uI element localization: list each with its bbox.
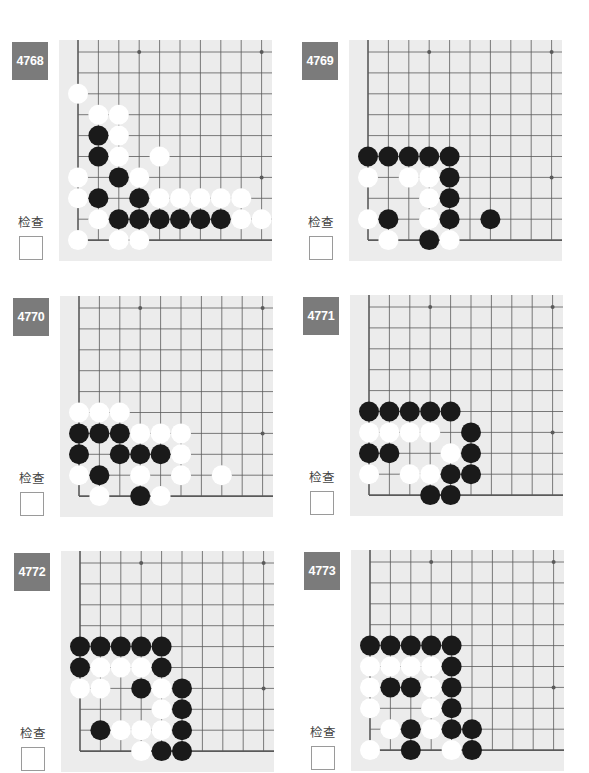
white-stone-icon [129, 230, 149, 250]
check-checkbox[interactable] [20, 492, 44, 516]
white-stone-icon [440, 230, 460, 250]
star-point-icon [428, 305, 432, 309]
white-stone-icon [131, 741, 151, 761]
white-stone-icon [419, 209, 439, 229]
black-stone-icon [378, 147, 398, 167]
black-stone-icon [442, 636, 462, 656]
white-stone-icon [211, 188, 231, 208]
black-stone-icon [420, 402, 440, 422]
black-stone-icon [441, 485, 461, 505]
black-stone-icon [88, 126, 108, 146]
white-stone-icon [150, 188, 170, 208]
black-stone-icon [400, 402, 420, 422]
go-board[interactable] [350, 295, 563, 516]
white-stone-icon [152, 720, 172, 740]
black-stone-icon [360, 636, 380, 656]
go-board[interactable] [60, 296, 273, 517]
black-stone-icon [401, 740, 421, 760]
white-stone-icon [88, 209, 108, 229]
white-stone-icon [109, 105, 129, 125]
white-stone-icon [231, 209, 251, 229]
check-label: 检查 [308, 212, 338, 231]
black-stone-icon [359, 443, 379, 463]
black-stone-icon [461, 464, 481, 484]
black-stone-icon [110, 444, 130, 464]
go-board[interactable] [59, 40, 272, 261]
white-stone-icon [378, 230, 398, 250]
black-stone-icon [480, 209, 500, 229]
black-stone-icon [129, 209, 149, 229]
white-stone-icon [401, 657, 421, 677]
white-stone-icon [420, 422, 440, 442]
check-checkbox[interactable] [21, 747, 45, 771]
black-stone-icon [129, 188, 149, 208]
star-point-icon [261, 431, 265, 435]
white-stone-icon [359, 422, 379, 442]
white-stone-icon [151, 423, 171, 443]
white-stone-icon [441, 443, 461, 463]
black-stone-icon [150, 209, 170, 229]
white-stone-icon [442, 740, 462, 760]
white-stone-icon [111, 658, 131, 678]
white-stone-icon [152, 678, 172, 698]
black-stone-icon [152, 637, 172, 657]
go-board[interactable] [351, 550, 564, 771]
go-board[interactable] [61, 551, 274, 772]
black-stone-icon [420, 485, 440, 505]
white-stone-icon [400, 464, 420, 484]
white-stone-icon [109, 230, 129, 250]
black-stone-icon [441, 464, 461, 484]
black-stone-icon [152, 741, 172, 761]
black-stone-icon [442, 657, 462, 677]
black-stone-icon [172, 678, 192, 698]
white-stone-icon [380, 719, 400, 739]
white-stone-icon [231, 188, 251, 208]
white-stone-icon [420, 464, 440, 484]
check-checkbox[interactable] [309, 236, 333, 260]
white-stone-icon [170, 188, 190, 208]
star-point-icon [261, 306, 265, 310]
star-point-icon [262, 561, 266, 565]
black-stone-icon [111, 637, 131, 657]
black-stone-icon [442, 698, 462, 718]
white-stone-icon [380, 657, 400, 677]
black-stone-icon [379, 402, 399, 422]
white-stone-icon [109, 126, 129, 146]
black-stone-icon [440, 147, 460, 167]
black-stone-icon [441, 402, 461, 422]
check-checkbox[interactable] [310, 491, 334, 515]
black-stone-icon [358, 147, 378, 167]
white-stone-icon [150, 147, 170, 167]
black-stone-icon [172, 741, 192, 761]
white-stone-icon [358, 167, 378, 187]
black-stone-icon [380, 636, 400, 656]
star-point-icon [137, 50, 141, 54]
problem-4770: 4770 检查 [13, 296, 303, 536]
problem-number-badge: 4769 [302, 42, 338, 80]
black-stone-icon [152, 658, 172, 678]
check-checkbox[interactable] [19, 236, 43, 260]
black-stone-icon [359, 402, 379, 422]
white-stone-icon [252, 209, 272, 229]
star-point-icon [138, 306, 142, 310]
black-stone-icon [70, 637, 90, 657]
white-stone-icon [131, 658, 151, 678]
problem-4771: 4771 检查 [303, 295, 589, 535]
white-stone-icon [399, 167, 419, 187]
black-stone-icon [462, 740, 482, 760]
problem-4773: 4773 检查 [304, 550, 589, 773]
problem-number-badge: 4773 [304, 552, 340, 590]
white-stone-icon [68, 188, 88, 208]
white-stone-icon [212, 465, 232, 485]
white-stone-icon [421, 677, 441, 697]
white-stone-icon [421, 698, 441, 718]
white-stone-icon [130, 465, 150, 485]
black-stone-icon [130, 444, 150, 464]
check-checkbox[interactable] [311, 746, 335, 770]
white-stone-icon [69, 465, 89, 485]
black-stone-icon [379, 443, 399, 463]
black-stone-icon [440, 188, 460, 208]
black-stone-icon [172, 699, 192, 719]
go-board[interactable] [349, 40, 562, 261]
white-stone-icon [400, 422, 420, 442]
